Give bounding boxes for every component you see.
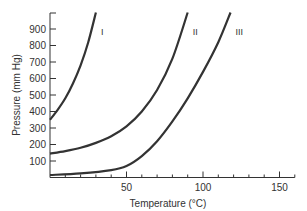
- y-tick-label: 500: [29, 90, 46, 101]
- series-line-III: [50, 13, 231, 176]
- y-tick-label: 700: [29, 57, 46, 68]
- series-label-I: I: [101, 27, 104, 37]
- series-line-II: [50, 13, 188, 154]
- x-tick-label: 50: [121, 182, 133, 193]
- y-tick-label: 900: [29, 24, 46, 35]
- y-tick-label: 200: [29, 139, 46, 150]
- x-tick-label: 100: [195, 182, 212, 193]
- series-line-I: [50, 13, 96, 120]
- y-axis-label: Pressure (mm Hg): [11, 54, 22, 136]
- y-tick-label: 100: [29, 156, 46, 167]
- series-label-III: III: [236, 27, 244, 37]
- y-tick-label: 600: [29, 73, 46, 84]
- x-axis-label: Temperature (°C): [130, 198, 207, 209]
- y-tick-label: 800: [29, 40, 46, 51]
- series-label-II: II: [193, 27, 198, 37]
- y-tick-label: 300: [29, 123, 46, 134]
- y-tick-label: 400: [29, 106, 46, 117]
- chart: 50100150100200300400500600700800900 IIII…: [0, 0, 307, 211]
- x-tick-label: 150: [271, 182, 288, 193]
